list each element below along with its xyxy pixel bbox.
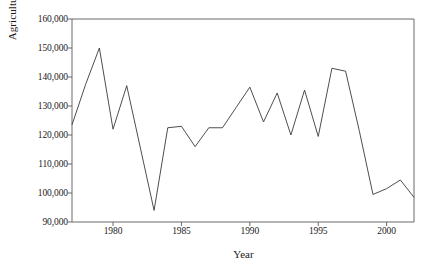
axis-lines (72, 19, 414, 222)
tick-marks (68, 19, 387, 226)
data-series-line (72, 48, 414, 210)
plot-area (0, 0, 432, 274)
line-chart: Agricultural sector Year 90,000100,00011… (0, 0, 432, 274)
